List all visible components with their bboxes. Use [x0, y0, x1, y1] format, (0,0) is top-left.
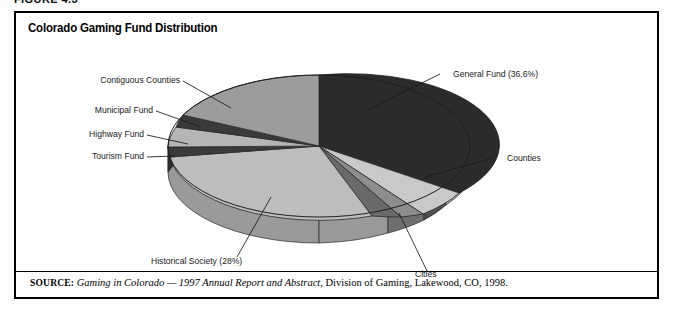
- label-contiguous-counties: Contiguous Counties: [86, 75, 180, 85]
- label-general-fund: General Fund (36.6%): [453, 69, 538, 79]
- source-prefix: SOURCE:: [30, 278, 74, 288]
- label-municipal-fund: Municipal Fund: [77, 105, 153, 115]
- label-tourism-fund: Tourism Fund: [76, 151, 144, 161]
- label-highway-fund: Highway Fund: [74, 129, 144, 139]
- figure-number-partial: FIGURE 4.3: [14, 0, 134, 4]
- label-historical-society: Historical Society (28%): [151, 256, 242, 266]
- source-note: SOURCE: Gaming in Colorado — 1997 Annual…: [30, 276, 642, 290]
- figure-page: FIGURE 4.3 Colorado Gaming Fund Distribu…: [0, 0, 677, 310]
- label-counties: Counties: [507, 153, 541, 163]
- page-title: Colorado Gaming Fund Distribution: [28, 21, 217, 35]
- source-title: Gaming in Colorado — 1997 Annual Report …: [77, 277, 323, 288]
- source-divider: [16, 271, 657, 272]
- source-rest: Division of Gaming, Lakewood, CO, 1998.: [323, 277, 508, 288]
- figure-frame: Colorado Gaming Fund Distribution: [14, 11, 659, 299]
